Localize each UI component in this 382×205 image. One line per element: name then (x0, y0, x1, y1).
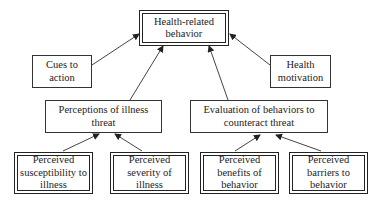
node-label: Perceived (308, 154, 349, 165)
node-perceived-benefits: Perceived benefits of behavior (200, 152, 279, 194)
node-perceived-severity: Perceived severity of illness (110, 152, 189, 194)
node-health-motivation: Health motivation (270, 55, 331, 88)
node-label: severity of (127, 167, 172, 178)
edge-barriers-to-evaluation (276, 135, 321, 151)
node-label: motivation (278, 72, 324, 83)
node-label: Perceived (219, 154, 260, 165)
node-label: barriers to (307, 167, 350, 178)
node-label: behavior (166, 28, 203, 39)
node-label: Health-related (154, 16, 214, 27)
node-cues-to-action: Cues to action (32, 55, 92, 88)
node-label: Perceptions of illness (59, 104, 149, 115)
node-label: Perceived (129, 154, 170, 165)
node-label: counteract threat (224, 117, 294, 128)
node-label: action (49, 72, 75, 83)
edge-motivation-to-outcome (230, 34, 270, 65)
edge-severity-to-threat (115, 134, 142, 151)
node-label: behavior (221, 179, 258, 190)
node-label: illness (136, 179, 163, 190)
edge-benefits-to-evaluation (235, 135, 260, 151)
edge-threat-to-outcome (130, 46, 163, 100)
node-perceived-barriers: Perceived barriers to behavior (289, 152, 368, 194)
node-perceptions-of-illness-threat: Perceptions of illness threat (45, 100, 162, 133)
node-label: threat (92, 117, 116, 128)
node-label: Health (287, 59, 315, 70)
node-label: Perceived (33, 154, 74, 165)
node-perceived-susceptibility: Perceived susceptibility to illness (14, 152, 93, 194)
node-label: susceptibility to (20, 167, 87, 178)
node-label: Evaluation of behaviors to (203, 104, 314, 115)
node-label: illness (40, 179, 67, 190)
edge-susceptibility-to-threat (63, 134, 99, 151)
node-health-related-behavior: Health-related behavior (139, 10, 229, 46)
node-evaluation-of-behaviors: Evaluation of behaviors to counteract th… (190, 100, 328, 133)
edge-evaluation-to-outcome (209, 46, 228, 100)
node-label: Cues to (46, 59, 78, 70)
node-label: benefits of (217, 167, 262, 178)
node-label: behavior (310, 179, 347, 190)
edge-cues-to-outcome (92, 34, 139, 65)
